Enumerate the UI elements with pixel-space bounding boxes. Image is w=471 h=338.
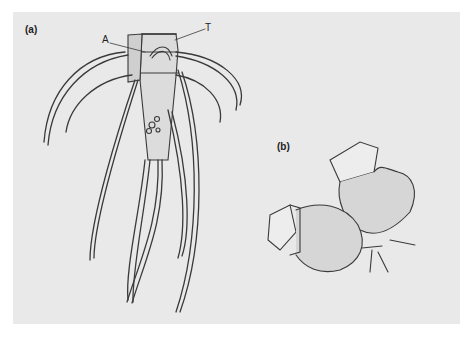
lorica-a — [110, 29, 205, 160]
panel-a-label: (a) — [25, 24, 37, 35]
organism-illustration — [0, 0, 471, 338]
lorica-b — [268, 142, 415, 272]
annotation-t: T — [205, 22, 211, 33]
panel-b-label: (b) — [277, 141, 290, 152]
annotation-a: A — [102, 34, 109, 45]
